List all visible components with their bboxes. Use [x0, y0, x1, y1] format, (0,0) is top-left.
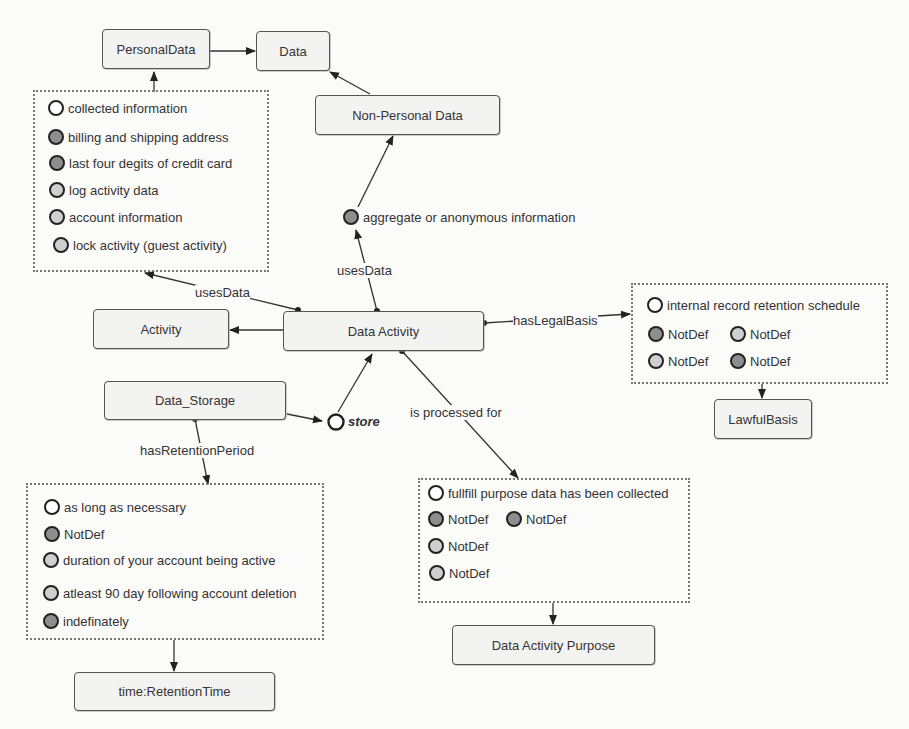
instance-label: fullfill purpose data has been collected: [448, 486, 668, 501]
instance-credit-card[interactable]: last four degits of credit card: [49, 155, 232, 171]
node-data[interactable]: Data: [256, 31, 330, 71]
individual-dark-icon: [506, 511, 522, 527]
instance-label: NotDef: [750, 327, 790, 342]
instance-fullfill-purpose[interactable]: fullfill purpose data has been collected: [428, 485, 668, 501]
node-activity[interactable]: Activity: [93, 309, 229, 349]
instance-label: aggregate or anonymous information: [363, 210, 575, 225]
instance-billing-address[interactable]: billing and shipping address: [48, 129, 228, 145]
edge-label-has-retention-period: hasRetentionPeriod: [140, 443, 254, 458]
individual-white-icon: [428, 485, 444, 501]
individual-dark-icon: [428, 511, 444, 527]
instance-retention-notdef[interactable]: NotDef: [44, 526, 104, 542]
individual-dark-icon: [44, 526, 60, 542]
instance-purpose-notdef-1[interactable]: NotDef: [428, 511, 488, 527]
node-retention-time[interactable]: time:RetentionTime: [74, 672, 275, 711]
instance-purpose-notdef-2[interactable]: NotDef: [506, 511, 566, 527]
node-personal-data[interactable]: PersonalData: [102, 29, 210, 69]
instance-internal-record[interactable]: internal record retention schedule: [647, 297, 860, 313]
node-non-personal-data[interactable]: Non-Personal Data: [315, 95, 500, 135]
instance-purpose-notdef-3[interactable]: NotDef: [428, 538, 488, 554]
instance-label: duration of your account being active: [63, 553, 275, 568]
instance-label: NotDef: [448, 539, 488, 554]
individual-dark-icon: [49, 155, 65, 171]
instance-legal-notdef-2[interactable]: NotDef: [730, 326, 790, 342]
instance-as-long-as-necessary[interactable]: as long as necessary: [44, 499, 186, 515]
instance-label: log activity data: [69, 183, 159, 198]
instance-purpose-notdef-4[interactable]: NotDef: [429, 565, 489, 581]
individual-light-icon: [730, 326, 746, 342]
node-data-activity-purpose[interactable]: Data Activity Purpose: [452, 625, 655, 665]
instance-label: NotDef: [449, 566, 489, 581]
edge-label-is-processed-for: is processed for: [410, 405, 502, 420]
instance-label: account information: [69, 210, 182, 225]
instance-legal-notdef-1[interactable]: NotDef: [648, 326, 708, 342]
individual-white-icon: [48, 100, 64, 116]
instance-label: NotDef: [668, 327, 708, 342]
instance-log-activity[interactable]: log activity data: [49, 182, 159, 198]
node-lawful-basis[interactable]: LawfulBasis: [714, 399, 812, 439]
instance-label: last four degits of credit card: [69, 156, 232, 171]
instance-label: atleast 90 day following account deletio…: [63, 586, 296, 601]
instance-90-day[interactable]: atleast 90 day following account deletio…: [43, 585, 296, 601]
individual-dark-icon: [43, 613, 59, 629]
edge-label-uses-data-top: usesData: [337, 263, 392, 278]
instance-label: internal record retention schedule: [667, 298, 860, 313]
individual-white-icon: [44, 499, 60, 515]
individual-dark-icon: [648, 326, 664, 342]
individual-light-icon: [428, 538, 444, 554]
instance-lock-activity[interactable]: lock activity (guest activity): [53, 237, 227, 253]
instance-label: as long as necessary: [64, 500, 186, 515]
instance-label: NotDef: [750, 354, 790, 369]
individual-light-icon: [43, 552, 59, 568]
edge-label-store[interactable]: store: [348, 414, 380, 429]
instance-label: NotDef: [64, 527, 104, 542]
individual-dark-icon: [343, 209, 359, 225]
instance-label: NotDef: [448, 512, 488, 527]
instance-legal-notdef-3[interactable]: NotDef: [648, 353, 708, 369]
instance-aggregate-info[interactable]: aggregate or anonymous information: [343, 209, 575, 225]
individual-light-icon: [648, 353, 664, 369]
instance-label: NotDef: [526, 512, 566, 527]
node-data-activity[interactable]: Data Activity: [283, 311, 484, 351]
instance-legal-notdef-4[interactable]: NotDef: [730, 353, 790, 369]
node-data-storage[interactable]: Data_Storage: [104, 381, 286, 420]
instance-account-information[interactable]: account information: [49, 209, 182, 225]
instance-collected-information[interactable]: collected information: [48, 100, 187, 116]
instance-label: indefinately: [63, 614, 129, 629]
individual-light-icon: [49, 182, 65, 198]
instance-label: lock activity (guest activity): [73, 238, 227, 253]
individual-light-icon: [429, 565, 445, 581]
instance-label: collected information: [68, 101, 187, 116]
instance-indefinately[interactable]: indefinately: [43, 613, 129, 629]
instance-label: NotDef: [668, 354, 708, 369]
individual-light-icon: [43, 585, 59, 601]
individual-white-icon: [647, 297, 663, 313]
instance-label: billing and shipping address: [68, 130, 228, 145]
edge-label-uses-data-left: usesData: [195, 285, 250, 300]
individual-dark-icon: [730, 353, 746, 369]
edge-label-has-legal-basis: hasLegalBasis: [513, 313, 598, 328]
instance-account-duration[interactable]: duration of your account being active: [43, 552, 275, 568]
individual-light-icon: [53, 237, 69, 253]
individual-dark-icon: [48, 129, 64, 145]
individual-light-icon: [49, 209, 65, 225]
